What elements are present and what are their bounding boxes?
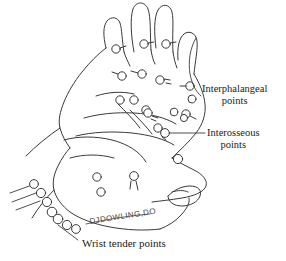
forearm-hatching [10,185,40,210]
palm-point [93,173,101,181]
thenar-eminence [64,137,146,162]
ip-point [162,40,176,48]
label-interphalangeal-line1: Interphalangeal [202,83,267,94]
label-interphalangeal-points: Interphalangeal points [202,83,267,106]
artist-signature-group: DJDOWLING,DO [89,207,157,226]
finger-little-outline [178,32,197,74]
hand-outline [53,48,206,230]
label-interosseous-points: Interosseous points [207,127,260,150]
palm-points [93,172,139,197]
ip-point [156,76,171,84]
label-interosseous-line2: points [207,139,260,151]
ip-point [112,72,126,80]
interosseous-points [144,95,196,164]
artist-signature: DJDOWLING,DO [89,207,157,226]
palm-point [97,188,105,196]
label-wrist-tender-points: Wrist tender points [82,238,166,250]
label-interphalangeal-line2: points [202,95,267,107]
wrist-point [53,214,63,224]
label-interosseous-line1: Interosseous [207,127,260,138]
wrist-tender-points [30,180,81,234]
ip-point [116,96,124,104]
io-point [144,109,158,121]
ip-point [180,114,187,121]
hand-tender-points-figure: DJDOWLING,DO Interphalangeal points Inte… [0,0,286,261]
io-point [173,154,182,163]
io-point [170,108,178,116]
ip-point [140,40,154,48]
thumb-outline [168,186,201,206]
wrist-point [36,188,45,197]
wrist-point [62,220,71,229]
wrist-point [30,180,39,189]
ip-point [130,96,138,104]
palm-point [130,172,139,190]
ip-point [131,70,146,78]
web-crease-2 [151,50,155,64]
wrist-point [72,225,81,234]
wrist-point [42,197,51,206]
web-crease-3 [173,52,177,68]
io-point [188,95,196,103]
io-point [161,129,170,140]
web-crease-1 [124,52,130,66]
